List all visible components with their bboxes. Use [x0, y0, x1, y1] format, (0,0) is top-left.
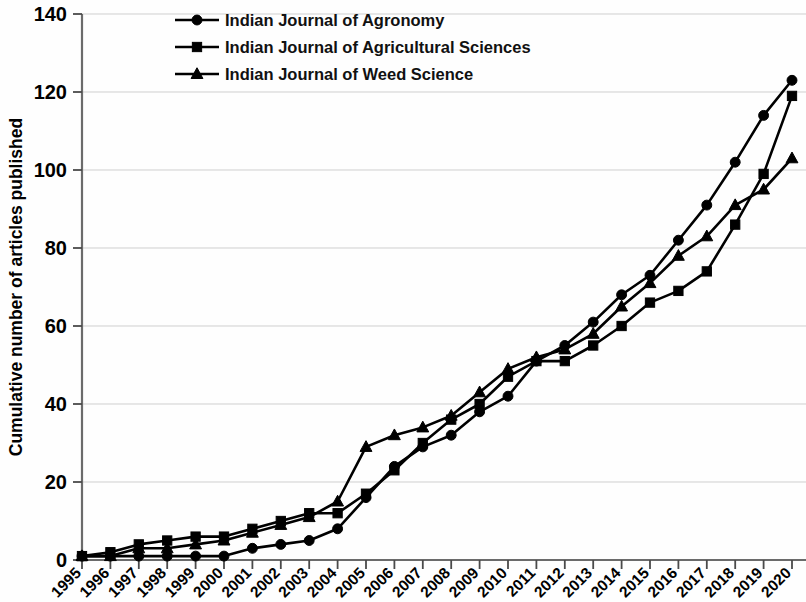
data-point-marker — [617, 321, 626, 330]
y-tick-label: 80 — [45, 237, 67, 259]
y-tick-labels-group: 020406080100120140 — [34, 3, 67, 571]
data-point-marker — [333, 509, 342, 518]
legend-marker-icon — [192, 42, 201, 51]
data-point-marker — [333, 524, 343, 534]
series-line — [82, 80, 792, 556]
x-tick-label: 2016 — [644, 564, 681, 601]
x-tick-label: 2000 — [190, 564, 226, 600]
x-tick-label: 2018 — [701, 564, 738, 601]
data-point-marker — [759, 169, 768, 178]
series-circle — [77, 75, 797, 561]
legend-label: Indian Journal of Weed Science — [225, 65, 473, 83]
data-point-marker — [674, 286, 683, 295]
data-point-marker — [787, 75, 797, 85]
data-point-marker — [730, 157, 740, 167]
data-series-group — [76, 75, 798, 561]
x-tick-label: 2004 — [303, 564, 340, 601]
data-point-marker — [390, 466, 399, 475]
x-tick-label: 2009 — [445, 564, 482, 601]
data-point-marker — [617, 290, 627, 300]
legend-item-triangle[interactable]: Indian Journal of Weed Science — [175, 65, 473, 83]
x-tick-label: 2007 — [389, 564, 425, 600]
x-tick-label: 1998 — [133, 564, 170, 601]
series-line — [82, 158, 792, 556]
x-tick-label: 2001 — [218, 564, 255, 601]
x-tick-label: 1996 — [76, 564, 113, 601]
x-tick-label: 2002 — [247, 564, 283, 600]
data-point-marker — [702, 200, 712, 210]
y-tick-label: 0 — [56, 549, 67, 571]
x-tick-label: 2014 — [587, 564, 624, 601]
data-point-marker — [247, 543, 257, 553]
x-tick-label: 2003 — [275, 564, 312, 601]
data-point-marker — [332, 495, 344, 506]
data-point-marker — [589, 341, 598, 350]
data-point-marker — [219, 551, 229, 561]
data-point-marker — [588, 317, 598, 327]
legend-label: Indian Journal of Agricultural Sciences — [225, 38, 531, 56]
x-tick-label: 1995 — [48, 564, 85, 601]
data-point-marker — [475, 399, 484, 408]
legend-item-square[interactable]: Indian Journal of Agricultural Sciences — [175, 38, 531, 56]
data-point-marker — [560, 356, 569, 365]
legend-group: Indian Journal of AgronomyIndian Journal… — [175, 11, 531, 83]
y-tick-label: 120 — [34, 81, 67, 103]
data-point-marker — [446, 430, 456, 440]
data-point-marker — [759, 110, 769, 120]
data-point-marker — [418, 438, 427, 447]
series-triangle — [76, 152, 798, 561]
data-point-marker — [361, 489, 370, 498]
data-point-marker — [702, 267, 711, 276]
x-tick-label: 2017 — [673, 564, 709, 600]
data-point-marker — [645, 298, 654, 307]
y-tick-label: 40 — [45, 393, 67, 415]
line-chart-canvas: 020406080100120140 199519961997199819992… — [0, 0, 806, 602]
x-tick-label: 2020 — [758, 564, 794, 600]
legend-label: Indian Journal of Agronomy — [225, 11, 445, 29]
y-axis-title: Cumulative number of articles published — [6, 118, 26, 456]
chart-figure: 020406080100120140 199519961997199819992… — [0, 0, 806, 602]
x-tick-label: 2015 — [616, 564, 653, 601]
gridlines-group — [82, 14, 806, 560]
y-tick-label: 100 — [34, 159, 67, 181]
x-tick-label: 2012 — [531, 564, 567, 600]
data-point-marker — [672, 250, 684, 261]
data-point-marker — [787, 91, 796, 100]
data-point-marker — [731, 220, 740, 229]
x-tick-label: 2019 — [729, 564, 766, 601]
x-tick-labels-group: 1995199619971998199920002001200220032004… — [48, 564, 794, 601]
y-tick-label: 60 — [45, 315, 67, 337]
y-tick-label: 20 — [45, 471, 67, 493]
x-tick-label: 1997 — [105, 564, 141, 600]
x-tick-label: 1999 — [161, 564, 198, 601]
data-point-marker — [786, 152, 798, 163]
y-tick-label: 140 — [34, 3, 67, 25]
data-point-marker — [276, 539, 286, 549]
x-tick-label: 2005 — [332, 564, 369, 601]
y-axis-title-group: Cumulative number of articles published — [6, 118, 26, 456]
data-point-marker — [673, 235, 683, 245]
x-tick-label: 2013 — [559, 564, 596, 601]
x-tick-label: 2006 — [360, 564, 397, 601]
legend-marker-icon — [192, 15, 202, 25]
x-tick-label: 2010 — [474, 564, 510, 600]
x-tick-label: 2011 — [503, 564, 539, 600]
data-point-marker — [503, 391, 513, 401]
data-point-marker — [191, 551, 201, 561]
x-tick-label: 2008 — [417, 564, 454, 601]
axis-group — [73, 14, 806, 569]
data-point-marker — [304, 536, 314, 546]
